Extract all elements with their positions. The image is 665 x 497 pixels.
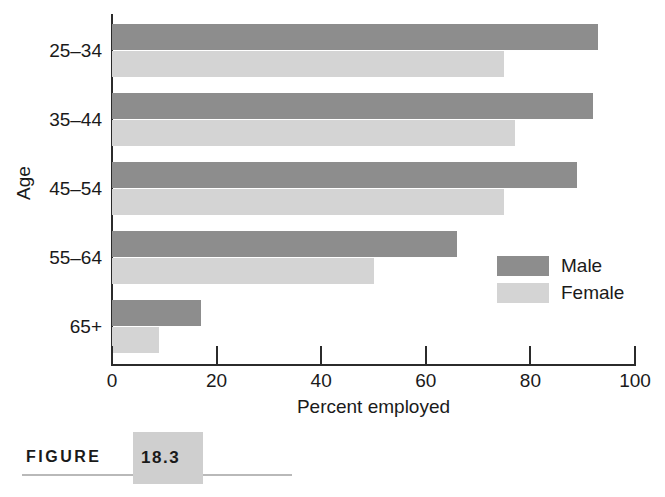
caption-number: 18.3 bbox=[141, 448, 180, 468]
x-tick-label-1: 20 bbox=[187, 370, 247, 392]
x-axis-line bbox=[111, 364, 636, 366]
bar-group: 25–34 bbox=[112, 18, 635, 87]
x-tick-label-2: 40 bbox=[291, 370, 351, 392]
x-tick-label-4: 80 bbox=[500, 370, 560, 392]
x-tick-label-5: 100 bbox=[605, 370, 665, 392]
x-tick-mark-3 bbox=[425, 346, 427, 364]
x-tick-mark-2 bbox=[320, 346, 322, 364]
bar-group: 35–44 bbox=[112, 87, 635, 156]
legend-label-male: Male bbox=[561, 256, 602, 276]
x-tick-label-3: 60 bbox=[396, 370, 456, 392]
legend-swatch-male bbox=[497, 256, 549, 276]
x-tick-mark-5 bbox=[634, 346, 636, 364]
y-tick-label-3: 55–64 bbox=[10, 248, 102, 267]
bar-group: 45–54 bbox=[112, 156, 635, 225]
y-tick-label-4: 65+ bbox=[10, 317, 102, 336]
x-tick-mark-1 bbox=[216, 346, 218, 364]
bar-female-3 bbox=[112, 258, 374, 284]
x-tick-mark-4 bbox=[529, 346, 531, 364]
bar-female-1 bbox=[112, 120, 515, 146]
plot-area: 25–3435–4445–5455–6465+ bbox=[112, 18, 635, 363]
legend-item-female: Female bbox=[497, 283, 624, 303]
y-tick-label-1: 35–44 bbox=[10, 110, 102, 129]
bar-female-4 bbox=[112, 327, 159, 353]
bar-female-2 bbox=[112, 189, 504, 215]
bar-male-3 bbox=[112, 231, 457, 257]
caption-word: FIGURE bbox=[26, 448, 101, 466]
y-tick-label-0: 25–34 bbox=[10, 41, 102, 60]
legend-item-male: Male bbox=[497, 256, 624, 276]
figure-caption: FIGURE 18.3 bbox=[0, 432, 340, 488]
y-axis-title: Age bbox=[13, 153, 35, 213]
bar-male-2 bbox=[112, 162, 577, 188]
bar-male-0 bbox=[112, 24, 598, 50]
legend-swatch-female bbox=[497, 283, 549, 303]
bar-female-0 bbox=[112, 51, 504, 77]
figure-container: 25–3435–4445–5455–6465+ 020406080100 Per… bbox=[0, 0, 665, 497]
legend: MaleFemale bbox=[497, 256, 624, 310]
x-tick-label-0: 0 bbox=[82, 370, 142, 392]
bar-male-4 bbox=[112, 300, 201, 326]
x-tick-mark-0 bbox=[111, 346, 113, 364]
legend-label-female: Female bbox=[561, 283, 624, 303]
x-axis-title: Percent employed bbox=[112, 396, 635, 418]
bar-male-1 bbox=[112, 93, 593, 119]
